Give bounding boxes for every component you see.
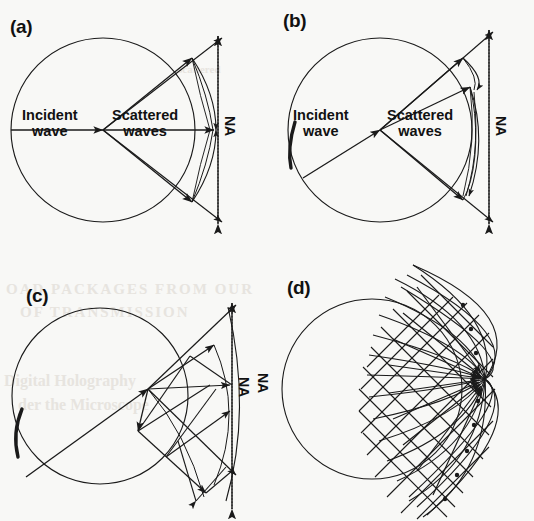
node-d-8 [455,473,459,477]
node-d-9 [443,497,447,501]
incident-arrow-c [26,389,148,477]
incident-label-a-line1: Incident [22,108,78,124]
panel-label-b: (b) [283,10,306,32]
scattered-ray-c-1 [148,305,236,389]
incident-label-a: Incident wave [22,108,78,139]
node-d-7 [465,449,469,453]
wavefront-arc-b-u1 [463,58,479,90]
panel-a: (a) Incident wave Scattered waves NA [0,0,267,260]
na-label-c: NA [236,377,252,397]
lattice-d-b2 [361,315,479,433]
node-d-4 [477,375,482,380]
fan-arc-d-7 [367,375,485,379]
wavefront-arc-b-u2 [463,58,475,90]
na-label-a: NA [222,116,238,136]
rot-arm-c-6 [166,389,216,457]
scattered-label-b: Scattered waves [387,108,453,139]
lattice-d-b9 [367,295,439,367]
node-d-2 [469,327,473,331]
wavefront-arc-a-u1 [192,58,216,130]
lattice-d-b1 [359,303,467,411]
rot-arm-c-3 [138,356,190,431]
figure-root: scattered OAD PACKAGES FROM OUR OF TRANS… [0,0,534,521]
panel-label-d: (d) [287,277,310,299]
lattice-d-b8 [361,297,453,389]
scattered-ray-c-2 [148,345,214,389]
scattered-label-b-line2: waves [387,124,453,140]
na-label-d: NA [255,373,271,393]
panel-c: (c) NA [0,261,267,521]
scattered-label-a: Scattered waves [112,108,178,139]
scattered-ray-c-3 [148,385,230,389]
scattered-label-b-line1: Scattered [387,108,453,124]
scattered-label-a-line2: waves [112,124,178,140]
incident-label-b-line2: wave [293,124,349,140]
rot-arm-c-7 [166,411,230,457]
panel-d: (d) NA [267,261,534,521]
na-label-b: NA [493,116,509,136]
panel-label-c: (c) [26,285,48,307]
rot-arm-c-5 [138,431,206,493]
tilt-marker-c [16,409,22,457]
incident-label-a-line2: wave [22,124,78,140]
node-d-5 [476,399,480,403]
node-d-3 [474,351,478,355]
node-d-1 [461,303,465,307]
fan-arc-d-2 [413,265,487,379]
wavefront-arc-a-l1 [192,130,216,202]
lattice-d-a4 [363,433,447,517]
fan-arc-d-9 [373,379,485,419]
panel-d-drawing [267,261,534,521]
na-ray-a-dn [103,130,222,222]
incident-label-b-line1: Incident [293,108,349,124]
node-d-6 [472,423,476,427]
panel-label-a: (a) [10,16,32,38]
incident-label-b: Incident wave [293,108,349,139]
wavefront-arc-c-1 [226,307,240,501]
lattice-d-a3 [359,411,455,507]
panel-b: (b) Incident wave Scattered waves NA [267,0,534,260]
scattered-label-a-line1: Scattered [112,108,178,124]
wavefront-arc-c-2 [214,345,229,485]
rot-arm-c-2 [138,385,210,431]
